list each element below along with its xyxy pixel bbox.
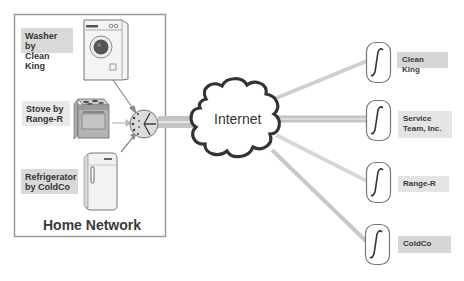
service-label-service-team-line1: Service [403, 114, 447, 124]
refrigerator-icon [84, 153, 117, 210]
refrigerator-label: Refrigerator by ColdCo [21, 169, 78, 194]
internet-label: Internet [214, 111, 261, 127]
service-label-coldco-text: ColdCo [403, 239, 431, 248]
service-label-coldco: ColdCo [398, 236, 451, 253]
home-network-title: Home Network [43, 217, 141, 233]
washer-icon [84, 20, 128, 80]
service-label-service-team: Service Team, Inc. [398, 111, 452, 138]
service-label-service-team-line2: Team, Inc. [403, 124, 447, 134]
network-hub-icon [130, 110, 158, 138]
service-node-range-r [367, 163, 391, 203]
internet-connections [272, 61, 367, 242]
stove-label-line1: Stove by [26, 104, 66, 114]
service-label-clean-king: Clean King [397, 52, 448, 68]
refrigerator-label-line1: Refrigerator [25, 172, 74, 182]
service-node-clean-king [367, 43, 391, 83]
washer-label-line1: Washer by [25, 31, 69, 51]
stove-label-line2: Range-R [26, 114, 66, 124]
washer-label: Washer by Clean King [21, 28, 73, 53]
stove-icon [74, 99, 109, 139]
service-label-range-r: Range-R [398, 176, 449, 192]
service-label-range-r-text: Range-R [403, 179, 436, 188]
service-node-service-team [367, 101, 391, 141]
service-node-coldco [366, 225, 390, 265]
washer-label-line2: Clean King [25, 51, 69, 71]
refrigerator-label-line2: by ColdCo [25, 182, 74, 192]
stove-label: Stove by Range-R [22, 101, 70, 126]
